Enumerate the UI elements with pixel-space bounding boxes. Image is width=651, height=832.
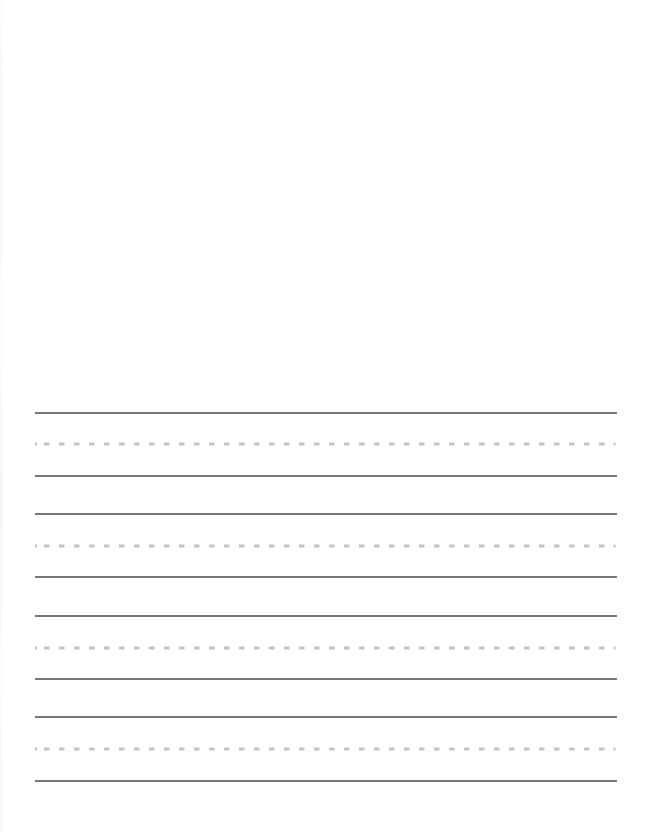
- line-set-4: [0, 715, 651, 785]
- middle-dashed-line: [35, 647, 616, 650]
- middle-dashed-line: [35, 443, 616, 446]
- line-set-2: [0, 512, 651, 582]
- line-set-1: [0, 411, 651, 481]
- practice-paper-page: [0, 0, 651, 832]
- line-set-3: [0, 614, 651, 684]
- middle-dashed-line: [35, 545, 616, 548]
- handwriting-lines-area: [0, 0, 651, 832]
- middle-dashed-line: [35, 748, 616, 751]
